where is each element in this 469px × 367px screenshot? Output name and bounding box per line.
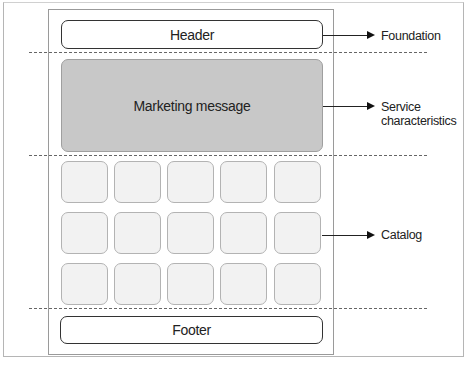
- foundation-connector: [323, 35, 367, 36]
- catalog-tile: [114, 212, 161, 254]
- catalog-tile: [114, 263, 161, 305]
- catalog-connector: [322, 235, 367, 236]
- marketing-block: Marketing message: [61, 59, 323, 152]
- section-divider: [29, 52, 427, 53]
- catalog-tile: [61, 161, 108, 203]
- catalog-tile: [167, 263, 214, 305]
- section-divider: [29, 308, 427, 309]
- footer-label: Footer: [172, 322, 211, 338]
- catalog-tile: [61, 263, 108, 305]
- service-label-line1: Service: [381, 100, 456, 114]
- header-label: Header: [170, 27, 214, 43]
- catalog-tile: [220, 263, 267, 305]
- catalog-tile: [114, 161, 161, 203]
- service-connector: [323, 106, 367, 107]
- catalog-tile: [274, 212, 321, 254]
- section-divider: [29, 155, 427, 156]
- catalog-label: Catalog: [381, 228, 422, 242]
- header-block: Header: [61, 20, 323, 49]
- catalog-tile: [167, 212, 214, 254]
- marketing-label: Marketing message: [133, 98, 250, 114]
- catalog-tile: [274, 263, 321, 305]
- arrow-right-icon: [367, 31, 375, 39]
- catalog-tile: [61, 212, 108, 254]
- catalog-tile: [220, 212, 267, 254]
- catalog-tile: [274, 161, 321, 203]
- service-label-line2: characteristics: [381, 114, 456, 128]
- foundation-label: Foundation: [381, 29, 441, 43]
- catalog-tile: [167, 161, 214, 203]
- service-label: Service characteristics: [381, 100, 456, 128]
- footer-block: Footer: [60, 316, 323, 344]
- arrow-right-icon: [367, 231, 375, 239]
- catalog-tile: [220, 161, 267, 203]
- arrow-right-icon: [367, 102, 375, 110]
